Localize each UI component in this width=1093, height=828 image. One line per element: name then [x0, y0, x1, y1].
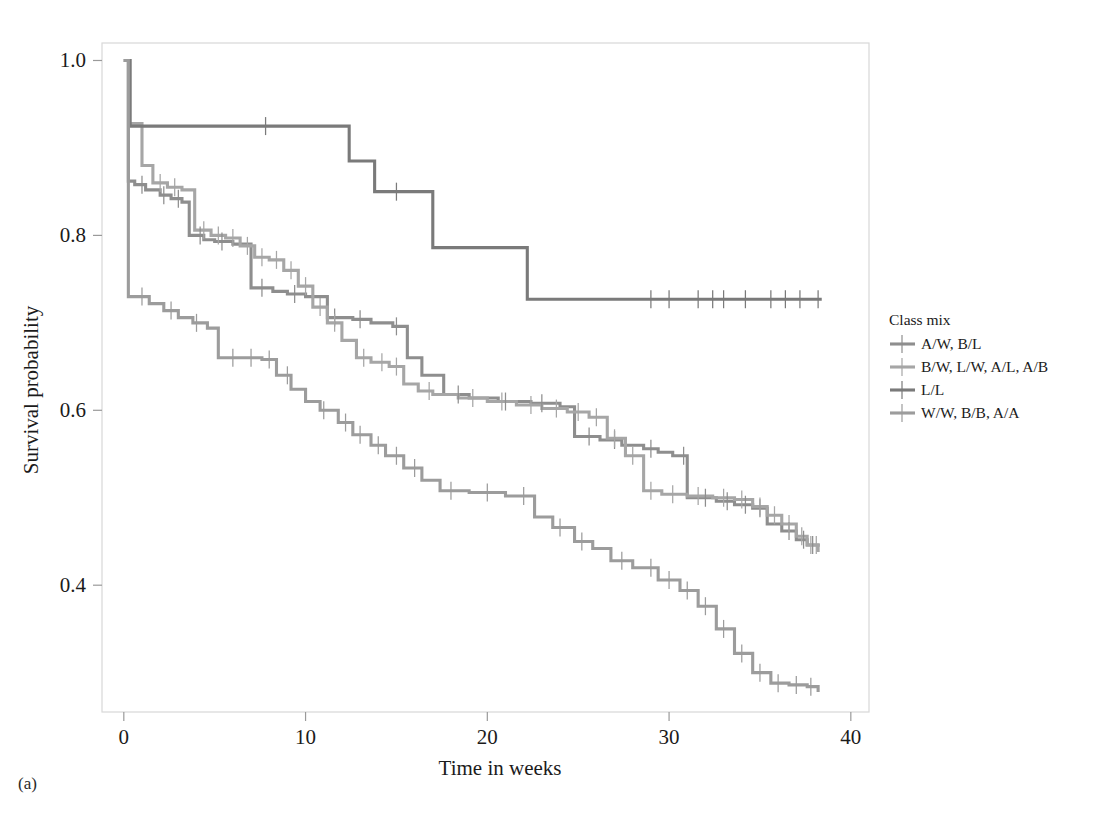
- legend-title: Class mix: [889, 311, 951, 328]
- x-axis-ticks: 010203040: [119, 712, 862, 749]
- legend-item[interactable]: B/W, L/W, A/L, A/B: [890, 358, 1048, 376]
- y-axis-ticks: 0.40.60.81.0: [60, 48, 102, 597]
- y-tick-label: 0.8: [60, 223, 86, 247]
- plot-frame: [102, 43, 869, 712]
- x-tick-label: 20: [477, 725, 498, 749]
- legend-item[interactable]: L/L: [890, 381, 944, 399]
- y-tick-label: 1.0: [60, 48, 86, 72]
- legend-item-label: L/L: [921, 381, 944, 398]
- legend-item[interactable]: A/W, B/L: [890, 335, 982, 353]
- x-axis-label: Time in weeks: [439, 756, 562, 780]
- legend-item[interactable]: W/W, B/B, A/A: [890, 404, 1020, 422]
- x-tick-label: 40: [840, 725, 861, 749]
- y-tick-label: 0.4: [60, 573, 87, 597]
- y-axis-label: Survival probability: [19, 305, 43, 474]
- legend-item-label: A/W, B/L: [921, 335, 982, 352]
- survival-curve: [124, 60, 818, 546]
- survival-curve: [124, 60, 818, 551]
- x-tick-label: 0: [119, 725, 130, 749]
- x-tick-label: 30: [659, 725, 680, 749]
- x-tick-label: 10: [295, 725, 316, 749]
- survival-curve: [124, 60, 818, 691]
- survival-plot: 0.40.60.81.0 010203040 Survival probabil…: [0, 0, 1093, 828]
- legend: Class mixA/W, B/LB/W, L/W, A/L, A/BL/LW/…: [889, 311, 1048, 422]
- legend-item-label: W/W, B/B, A/A: [921, 404, 1020, 421]
- panel-caption: (a): [18, 774, 37, 793]
- y-tick-label: 0.6: [60, 398, 86, 422]
- figure-panel-a: 0.40.60.81.0 010203040 Survival probabil…: [0, 0, 1093, 828]
- survival-curves: [124, 60, 822, 691]
- legend-item-label: B/W, L/W, A/L, A/B: [921, 358, 1048, 375]
- survival-curve: [124, 60, 822, 299]
- plot-border: [102, 43, 869, 712]
